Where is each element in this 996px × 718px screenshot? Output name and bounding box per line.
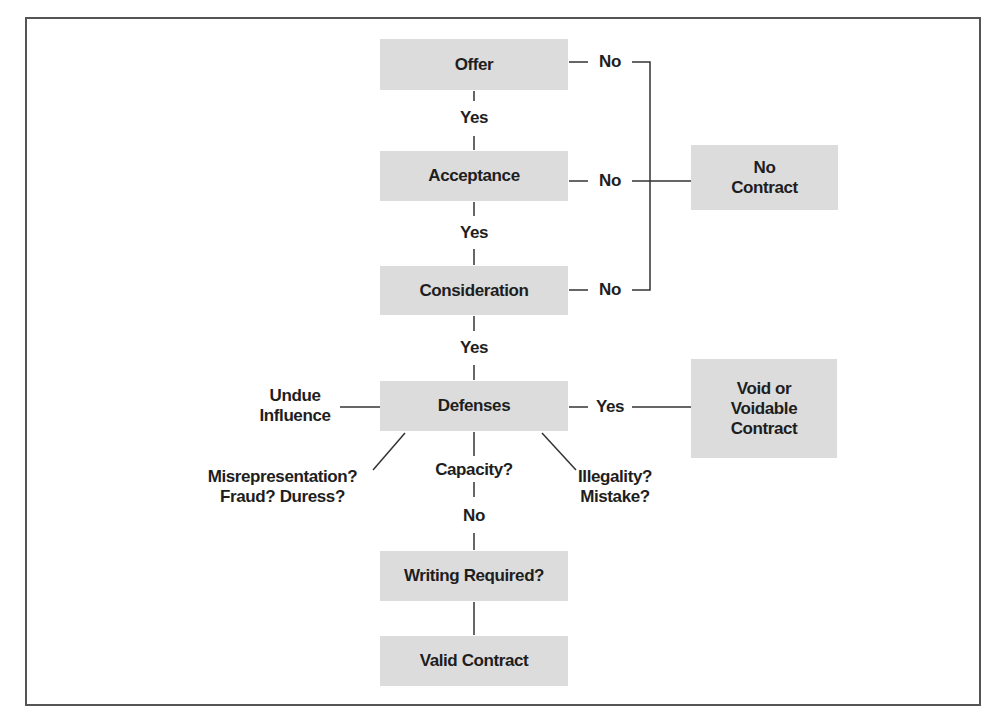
illegality-line1: Illegality? bbox=[575, 467, 655, 487]
capacity-no-label: No bbox=[456, 506, 492, 526]
undue-influence-label: Undue Influence bbox=[245, 386, 345, 426]
defenses-yes-label: Yes bbox=[590, 397, 630, 417]
void-line1: Void or bbox=[737, 379, 792, 399]
acceptance-yes-label: Yes bbox=[454, 223, 494, 243]
void-line2: Voidable bbox=[731, 399, 797, 419]
acceptance-node: Acceptance bbox=[380, 151, 568, 201]
valid-contract-node: Valid Contract bbox=[380, 636, 568, 686]
writing-required-node: Writing Required? bbox=[380, 551, 568, 601]
offer-label: Offer bbox=[455, 55, 494, 75]
misrep-line2: Fraud? Duress? bbox=[195, 487, 370, 507]
consideration-yes-label: Yes bbox=[454, 338, 494, 358]
defenses-node: Defenses bbox=[380, 381, 568, 431]
undue-line1: Undue bbox=[245, 386, 345, 406]
offer-yes-label: Yes bbox=[454, 108, 494, 128]
misrep-line1: Misrepresentation? bbox=[195, 467, 370, 487]
offer-node: Offer bbox=[380, 39, 568, 90]
capacity-label: Capacity? bbox=[424, 460, 524, 480]
illegality-line2: Mistake? bbox=[575, 487, 655, 507]
void-voidable-node: Void or Voidable Contract bbox=[691, 359, 837, 458]
consideration-node: Consideration bbox=[380, 266, 568, 315]
no-contract-line2: Contract bbox=[731, 178, 798, 198]
illegality-mistake-label: Illegality? Mistake? bbox=[575, 467, 655, 507]
defenses-label: Defenses bbox=[438, 396, 510, 416]
no-contract-node: No Contract bbox=[691, 145, 838, 210]
consideration-label: Consideration bbox=[419, 281, 528, 301]
misrepresentation-label: Misrepresentation? Fraud? Duress? bbox=[195, 467, 370, 507]
writing-required-label: Writing Required? bbox=[404, 566, 544, 586]
acceptance-no-label: No bbox=[592, 171, 628, 191]
acceptance-label: Acceptance bbox=[428, 166, 519, 186]
consideration-no-label: No bbox=[592, 280, 628, 300]
void-line3: Contract bbox=[731, 419, 798, 439]
offer-no-label: No bbox=[592, 52, 628, 72]
undue-line2: Influence bbox=[245, 406, 345, 426]
no-contract-line1: No bbox=[754, 158, 776, 178]
valid-contract-label: Valid Contract bbox=[420, 651, 529, 671]
connector-lines bbox=[0, 0, 996, 718]
